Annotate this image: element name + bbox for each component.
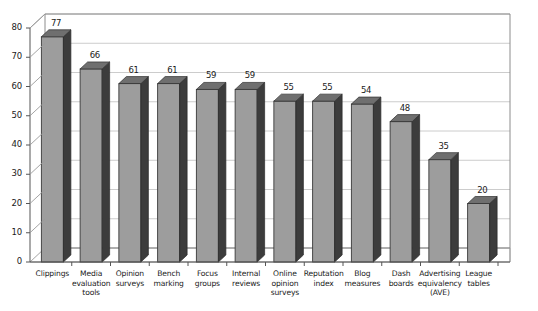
bar-value-label: 61 (113, 66, 155, 75)
bar-front-face (429, 160, 451, 262)
bar-front-face (158, 84, 180, 262)
bar-side-face (102, 62, 110, 262)
bar-front-face (468, 204, 490, 263)
bar-side-face (180, 77, 188, 262)
bar-value-label: 54 (345, 86, 387, 95)
bar-side-face (141, 77, 149, 262)
y-axis-tick-label: 60 (2, 82, 22, 91)
bar-side-face (335, 94, 343, 262)
y-axis-tick-label: 0 (2, 257, 22, 266)
bar-value-label: 59 (190, 71, 232, 80)
bar-front-face (119, 84, 141, 262)
bar-value-label: 55 (268, 83, 310, 92)
bar-side-face (451, 153, 459, 262)
bar-value-label: 35 (423, 142, 465, 151)
bar-side-face (257, 82, 265, 262)
bar-front-face (41, 37, 63, 262)
bar-chart: 01020304050607080 7766616159595555544835… (0, 0, 538, 311)
bar-side-face (490, 197, 498, 263)
x-axis-ticks (72, 262, 498, 266)
bar-value-label: 59 (229, 71, 271, 80)
bar-front-face (274, 101, 296, 262)
bar-value-label: 77 (35, 19, 77, 28)
y-axis-tick-label: 50 (2, 111, 22, 120)
y-axis-tick-label: 20 (2, 199, 22, 208)
bar-front-face (235, 89, 257, 262)
bar-front-face (351, 104, 373, 262)
y-axis-tick-label: 10 (2, 228, 22, 237)
bar-front-face (80, 69, 102, 262)
bar-side-face (63, 30, 71, 262)
bar-value-label: 66 (74, 51, 116, 60)
bar-front-face (196, 89, 218, 262)
bar-value-label: 48 (384, 104, 426, 113)
bar-side-face (373, 97, 381, 262)
y-axis-tick-label: 70 (2, 52, 22, 61)
bar-side-face (412, 115, 420, 262)
bar-side-face (296, 94, 304, 262)
x-axis-category-label: League tables (456, 269, 502, 288)
y-axis-tick-label: 40 (2, 140, 22, 149)
bar-value-label: 55 (306, 83, 348, 92)
chart-canvas (0, 0, 538, 311)
bar-value-label: 20 (461, 186, 503, 195)
bar-front-face (390, 122, 412, 262)
y-axis-tick-label: 30 (2, 169, 22, 178)
bar-front-face (313, 101, 335, 262)
y-axis-tick-label: 80 (2, 23, 22, 32)
bar-value-label: 61 (151, 66, 193, 75)
bar-side-face (218, 82, 226, 262)
